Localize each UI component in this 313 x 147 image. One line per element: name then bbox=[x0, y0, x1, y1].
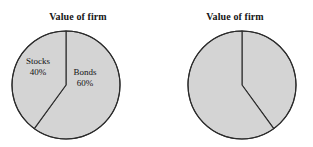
pie-svg-right bbox=[186, 29, 298, 141]
pie-chart-figure: Value of firm Stocks 40% Bonds 60% Value… bbox=[0, 0, 313, 147]
pie-label-bonds-left: Bonds 60% bbox=[61, 67, 109, 89]
pie-label-stocks-left-percent: 40% bbox=[14, 67, 62, 78]
pie-chart-right bbox=[186, 29, 298, 141]
pie-label-stocks-left-name: Stocks bbox=[26, 56, 50, 66]
chart-title-right: Value of firm bbox=[157, 11, 313, 22]
chart-title-left: Value of firm bbox=[0, 11, 156, 22]
chart-panel-left: Value of firm Stocks 40% Bonds 60% bbox=[0, 0, 156, 147]
pie-label-bonds-left-percent: 60% bbox=[61, 78, 109, 89]
pie-label-stocks-left: Stocks 40% bbox=[14, 56, 62, 78]
chart-panel-right: Value of firm Stocks 60% Bonds 40% bbox=[157, 0, 313, 147]
pie-label-bonds-left-name: Bonds bbox=[73, 67, 96, 77]
